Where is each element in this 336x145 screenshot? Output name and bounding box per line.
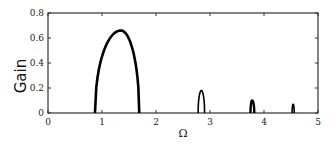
x-tick-label: 1 — [99, 117, 105, 127]
x-tick-label: 0 — [45, 117, 51, 127]
gain-curve — [95, 31, 139, 114]
x-tick-label: 3 — [207, 117, 213, 127]
x-tick-label: 2 — [153, 117, 159, 127]
y-tick-label: 0.4 — [30, 58, 45, 68]
x-axis-label: Ω — [178, 127, 187, 140]
gain-curve — [292, 104, 294, 113]
plot-area: 01234500.20.40.60.8 — [30, 8, 321, 127]
x-tick-label: 5 — [315, 117, 321, 127]
y-tick-label: 0.6 — [30, 33, 45, 43]
gain-curve — [251, 101, 255, 114]
gain-chart: 01234500.20.40.60.8 Gain Ω — [0, 0, 336, 145]
y-tick-label: 0 — [38, 108, 44, 118]
x-tick-label: 4 — [261, 117, 267, 127]
plot-frame — [48, 13, 318, 113]
y-axis-label: Gain — [12, 59, 30, 94]
y-tick-label: 0.2 — [30, 83, 44, 93]
y-tick-label: 0.8 — [30, 8, 45, 18]
gain-curve — [198, 91, 204, 114]
